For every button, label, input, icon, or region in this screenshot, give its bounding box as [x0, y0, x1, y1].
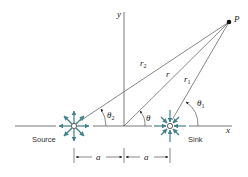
- theta2-arc: [101, 109, 106, 126]
- point-p-label: P: [233, 14, 240, 24]
- r-line: [124, 22, 229, 126]
- r1-label: r1: [184, 74, 191, 85]
- r2-label: r2: [140, 58, 147, 69]
- x-axis-label: x: [225, 125, 230, 135]
- rays: [80, 22, 229, 126]
- theta1-label: θ1: [197, 98, 204, 109]
- theta-arc: [140, 111, 145, 126]
- source-label: Source: [32, 135, 56, 144]
- dimension-a-right: a: [144, 152, 149, 162]
- dimension-a-left: a: [96, 152, 101, 162]
- y-axis-label: y: [116, 9, 121, 19]
- sink-point: [167, 123, 172, 128]
- dimension-lines: [74, 148, 170, 163]
- point-p: [227, 20, 232, 25]
- r2-line: [80, 22, 229, 121]
- source-sink-diagram: x y P r2 r r1 θ2 θ θ1 Source: [0, 0, 248, 177]
- r-label: r: [166, 69, 170, 79]
- sink-label: Sink: [188, 135, 203, 144]
- theta-label: θ: [146, 113, 151, 123]
- theta2-label: θ2: [107, 110, 114, 121]
- source-point: [71, 123, 76, 128]
